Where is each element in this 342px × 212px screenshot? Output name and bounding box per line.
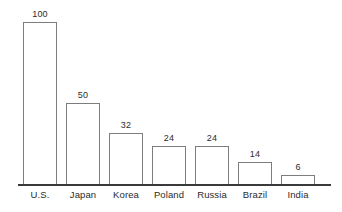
bar-rect[interactable] [152, 146, 186, 185]
bar-value-label: 100 [23, 9, 57, 19]
bar-rect[interactable] [23, 22, 57, 185]
bar-value-label: 50 [66, 90, 100, 100]
bar-group[interactable]: 32 [109, 133, 143, 185]
bar-group[interactable]: 100 [23, 22, 57, 185]
bar-rect[interactable] [66, 103, 100, 185]
bar-group[interactable]: 50 [66, 103, 100, 185]
bar-group[interactable]: 14 [238, 162, 272, 185]
bar-value-label: 14 [238, 149, 272, 159]
bar-value-label: 24 [152, 133, 186, 143]
x-axis-line [18, 184, 331, 186]
bar-rect[interactable] [109, 133, 143, 185]
bar-rect[interactable] [238, 162, 272, 185]
bar-group[interactable]: 24 [195, 146, 229, 185]
bar-value-label: 32 [109, 120, 143, 130]
bar-value-label: 6 [281, 162, 315, 172]
bar-value-label: 24 [195, 133, 229, 143]
bars-layer: 100 50 32 24 24 14 6 [0, 0, 342, 212]
bar-rect[interactable] [195, 146, 229, 185]
bar-group[interactable]: 24 [152, 146, 186, 185]
bar-chart: 100 50 32 24 24 14 6 [0, 0, 342, 212]
x-tick-label-6: India [270, 189, 326, 201]
